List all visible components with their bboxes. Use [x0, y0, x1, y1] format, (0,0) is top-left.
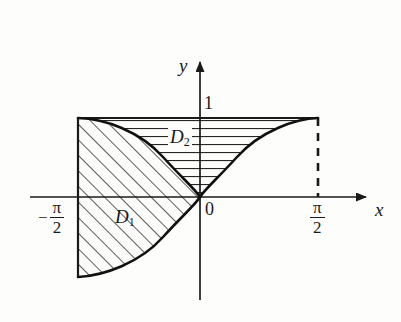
region-d2-subscript: 2 — [184, 135, 190, 149]
fraction-numerator: π — [310, 199, 325, 218]
fraction-numerator: π — [50, 199, 65, 218]
diagram-canvas — [0, 0, 401, 322]
x-axis-label: x — [375, 200, 383, 219]
region-d1-letter: D — [115, 206, 129, 227]
x-tick-right-label: π 2 — [310, 199, 325, 237]
fraction-denominator: 2 — [50, 218, 65, 237]
origin-label: 0 — [205, 200, 214, 218]
region-d1-subscript: 1 — [129, 215, 135, 229]
y-tick-one-label: 1 — [204, 94, 213, 112]
region-label-d1: D1 — [113, 207, 137, 228]
fraction-denominator: 2 — [310, 218, 325, 237]
fraction-pi-over-two-left: π 2 — [50, 199, 65, 237]
y-axis-label: y — [179, 56, 187, 75]
fraction-pi-over-two-right: π 2 — [310, 199, 325, 237]
math-figure: y x 1 0 − π 2 π 2 D2 D1 — [0, 0, 401, 322]
x-tick-left-label: − π 2 — [38, 199, 64, 237]
region-label-d2: D2 — [168, 127, 192, 148]
region-d2-letter: D — [170, 126, 184, 147]
minus-sign: − — [38, 209, 50, 226]
